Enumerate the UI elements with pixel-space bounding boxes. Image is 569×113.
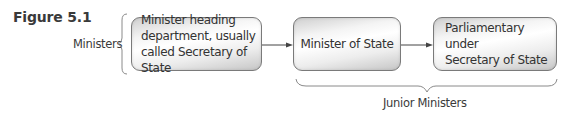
junior-ministers-brace: [296, 79, 557, 92]
node-parliamentary-under-secretary: Parliamentary under Secretary of State: [433, 17, 557, 71]
node-secretary-of-state: Minister heading department, usually cal…: [131, 17, 262, 71]
node-text-line: department, usually: [141, 28, 261, 44]
arrow-minister-of-state-to-under-secretary: [401, 43, 433, 48]
node-text-line: Minister heading: [141, 12, 261, 28]
node-secretary-of-state-text: Minister heading department, usually cal…: [141, 12, 261, 76]
ministers-brace: [118, 14, 127, 74]
arrow-secretary-to-minister-of-state: [262, 43, 293, 48]
node-text-line: Parliamentary under: [445, 20, 556, 52]
node-parliamentary-under-secretary-text: Parliamentary under Secretary of State: [445, 20, 556, 68]
node-minister-of-state-text: Minister of State: [301, 36, 394, 52]
node-text-line: called Secretary of State: [141, 44, 261, 76]
node-minister-of-state: Minister of State: [293, 17, 401, 71]
junior-ministers-group-label: Junior Ministers: [383, 96, 467, 110]
node-text-line: Secretary of State: [445, 52, 556, 68]
